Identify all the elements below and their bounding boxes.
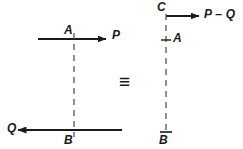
left-system-group [18,33,122,137]
label-point-B-left: B [64,134,73,146]
label-force-Q: Q [7,122,17,134]
label-point-A-right: A [173,32,182,44]
label-point-C: C [157,1,166,13]
figure-canvas: A P B Q ≡ C P – Q A B [0,0,243,149]
equivalence-symbol: ≡ [119,71,130,93]
label-point-A-left: A [64,24,73,36]
label-resultant-force: P – Q [204,8,235,20]
label-force-P: P [112,29,120,41]
label-point-B-right: B [159,134,168,146]
